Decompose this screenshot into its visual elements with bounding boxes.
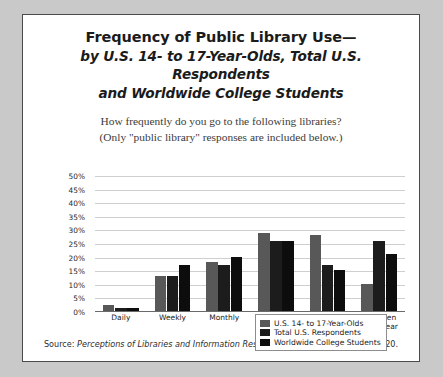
plot-canvas — [95, 176, 405, 312]
legend-item: Total U.S. Respondents — [260, 328, 381, 337]
bar — [206, 262, 218, 310]
bar — [231, 257, 243, 311]
chart-title-line-3: and Worldwide College Students — [41, 84, 401, 102]
bar — [322, 265, 334, 311]
chart-title-line-1: Frequency of Public Library Use— — [41, 28, 401, 47]
bar-group — [353, 176, 405, 311]
source-title: Perceptions of Libraries and Information… — [77, 339, 284, 349]
bar-group — [95, 176, 147, 311]
y-axis-tick-label: 45% — [69, 185, 85, 194]
subtitle-block: How frequently do you go to the followin… — [23, 113, 419, 145]
y-axis-tick-label: 35% — [69, 212, 85, 221]
legend-label: U.S. 14- to 17-Year-Olds — [274, 319, 363, 328]
bar — [373, 241, 385, 311]
x-axis-tick-label: Monthly — [198, 313, 250, 341]
y-axis-tick-label: 5% — [73, 294, 85, 303]
bar — [386, 254, 398, 311]
y-axis-labels: 50%45%40%35%30%25%20%15%10%5%0% — [23, 176, 91, 312]
bar — [167, 276, 179, 311]
bar — [282, 241, 294, 311]
legend-swatch-icon — [260, 320, 270, 327]
subtitle-line-2: (Only "public library" responses are inc… — [23, 129, 419, 145]
legend-item: U.S. 14- to 17-Year-Olds — [260, 319, 381, 328]
legend-label: Worldwide College Students — [274, 338, 381, 347]
y-axis-tick-label: 15% — [69, 267, 85, 276]
bar-group — [198, 176, 250, 311]
bar — [218, 265, 230, 311]
bar — [334, 270, 346, 310]
x-axis-line — [95, 311, 405, 312]
bar — [258, 233, 270, 311]
bar — [310, 235, 322, 310]
y-axis-tick-label: 40% — [69, 199, 85, 208]
legend-swatch-icon — [260, 329, 270, 336]
plot-area: 50%45%40%35%30%25%20%15%10%5%0% DailyWee… — [23, 158, 419, 318]
title-block: Frequency of Public Library Use— by U.S.… — [23, 15, 419, 102]
y-axis-tick-label: 10% — [69, 280, 85, 289]
bar-group — [302, 176, 354, 311]
bar-groups — [95, 176, 405, 311]
source-prefix: Source: — [44, 339, 75, 349]
chart-panel: Frequency of Public Library Use— by U.S.… — [22, 14, 420, 362]
chart-title-line-2: by U.S. 14- to 17-Year-Olds, Total U.S. … — [41, 47, 401, 83]
subtitle-line-1: How frequently do you go to the followin… — [23, 113, 419, 129]
bar — [155, 276, 167, 311]
y-axis-tick-label: 50% — [69, 172, 85, 181]
bar — [361, 284, 373, 311]
bar — [179, 265, 191, 311]
x-axis-tick-label: Weekly — [147, 313, 199, 341]
legend-swatch-icon — [260, 339, 270, 346]
bar — [270, 241, 282, 311]
y-axis-tick-label: 30% — [69, 226, 85, 235]
y-axis-tick-label: 25% — [69, 240, 85, 249]
bar-group — [147, 176, 199, 311]
legend-label: Total U.S. Respondents — [274, 328, 361, 337]
y-axis-tick-label: 0% — [73, 308, 85, 317]
y-axis-tick-label: 20% — [69, 253, 85, 262]
chart-legend: U.S. 14- to 17-Year-OldsTotal U.S. Respo… — [255, 314, 387, 351]
legend-item: Worldwide College Students — [260, 338, 381, 347]
bar-group — [250, 176, 302, 311]
x-axis-tick-label: Daily — [95, 313, 147, 341]
